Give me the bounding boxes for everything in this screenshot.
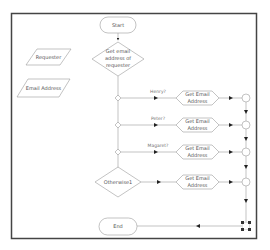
arrow-icon	[154, 96, 158, 100]
arrow-icon	[154, 123, 158, 127]
start-label: Start	[112, 22, 124, 28]
action-get-email-henry[interactable]: Get Email Address	[176, 91, 219, 105]
merge-circle[interactable]	[242, 94, 250, 102]
action-line: Address	[188, 182, 208, 188]
arrow-icon	[244, 137, 248, 141]
resize-handle	[241, 221, 244, 224]
arrow-icon	[229, 123, 233, 127]
arrow-icon	[229, 96, 233, 100]
resize-handle	[248, 221, 251, 224]
branch-condition: Henry?	[150, 89, 167, 94]
gateway-diamond	[115, 95, 121, 101]
gateway-diamond	[115, 122, 121, 128]
decision-line: address of	[105, 55, 131, 61]
gateway-diamond	[115, 149, 121, 155]
action-line: Get Email	[185, 175, 209, 181]
arrow-icon	[154, 150, 158, 154]
branch-peter: Peter?	[115, 116, 176, 128]
branch-henry: Henry?	[115, 89, 176, 101]
data-object-email-address[interactable]: Email Address	[17, 79, 70, 97]
decision-get-email-address[interactable]: Get email address of requester	[92, 42, 144, 76]
action-line: Address	[188, 152, 208, 158]
arrow-icon	[157, 180, 161, 184]
branch-condition: Peter?	[151, 116, 166, 121]
decision-otherwise[interactable]: Otherwise1	[95, 167, 141, 197]
end-node[interactable]: End	[99, 218, 137, 235]
data-object-label: Requester	[36, 54, 62, 61]
decision-label: Otherwise1	[104, 179, 133, 185]
end-label: End	[113, 223, 123, 229]
action-line: Get Email	[185, 118, 209, 124]
arrow-icon	[244, 199, 248, 203]
start-node[interactable]: Start	[100, 17, 136, 33]
merge-circle[interactable]	[242, 148, 250, 156]
arrow-icon	[229, 150, 233, 154]
arrow-icon	[229, 180, 233, 184]
resize-handle	[241, 228, 244, 231]
diagram-frame	[12, 14, 257, 239]
action-line: Address	[188, 98, 208, 104]
arrow-icon	[196, 224, 200, 228]
resize-handle	[248, 228, 251, 231]
branch-magaret: Magaret?	[115, 143, 176, 155]
action-get-email-peter[interactable]: Get Email Address	[176, 118, 219, 132]
decision-line: Get email	[106, 48, 130, 54]
branch-condition: Magaret?	[148, 143, 170, 148]
action-get-email-magaret[interactable]: Get Email Address	[176, 145, 219, 159]
data-object-requester[interactable]: Requester	[26, 49, 71, 65]
action-line: Address	[188, 125, 208, 131]
merge-circle[interactable]	[242, 178, 250, 186]
flowchart-canvas: Requester Email Address Start Get email …	[0, 0, 270, 250]
action-line: Get Email	[185, 91, 209, 97]
action-get-email-otherwise[interactable]: Get Email Address	[176, 175, 219, 189]
action-line: Get Email	[185, 145, 209, 151]
merge-circle[interactable]	[242, 121, 250, 129]
join-node[interactable]	[241, 221, 251, 231]
arrow-icon	[244, 165, 248, 169]
decision-line: requester	[106, 62, 131, 69]
data-object-label: Email Address	[26, 85, 62, 91]
arrow-icon	[244, 110, 248, 114]
